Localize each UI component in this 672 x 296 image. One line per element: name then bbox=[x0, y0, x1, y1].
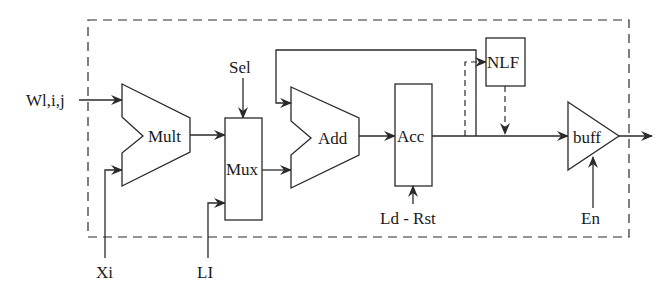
neuron-block-diagram: Wl,i,j Xi Mult Sel LI Mux Add Acc Ld - R… bbox=[0, 0, 672, 296]
layer-input-label: LI bbox=[197, 263, 213, 282]
acc-block: Acc bbox=[395, 84, 432, 186]
layer-arrow bbox=[208, 203, 225, 258]
mult-label: Mult bbox=[148, 127, 181, 146]
mult-block: Mult bbox=[122, 84, 190, 186]
mux-block: Mux bbox=[225, 118, 262, 220]
buff-label: buff bbox=[573, 128, 601, 147]
x-input-label: Xi bbox=[96, 263, 113, 282]
mux-label: Mux bbox=[226, 160, 259, 179]
enable-label: En bbox=[581, 209, 600, 228]
acc-label: Acc bbox=[397, 127, 425, 146]
load-reset-label: Ld - Rst bbox=[380, 209, 436, 228]
weight-input-label: Wl,i,j bbox=[26, 91, 65, 110]
add-block: Add bbox=[291, 87, 359, 188]
nlf-label: NLF bbox=[487, 53, 519, 72]
nlf-block: NLF bbox=[486, 38, 525, 86]
add-label: Add bbox=[318, 129, 348, 148]
sel-label: Sel bbox=[229, 58, 251, 77]
x-arrow bbox=[105, 170, 122, 258]
